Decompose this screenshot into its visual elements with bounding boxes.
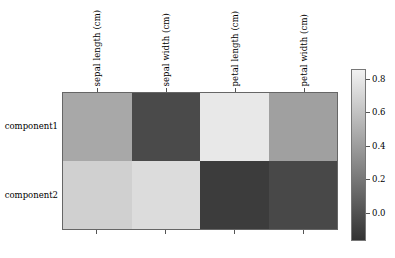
column-label-petal-width: petal width (cm): [299, 14, 308, 86]
colorbar: 0.8 0.6 0.4 0.2 0.0: [351, 69, 395, 241]
colorbar-tick-mark: [366, 179, 370, 180]
colorbar-label-0: 0.8: [372, 75, 386, 84]
colorbar-tick-mark: [366, 146, 370, 147]
row-label-component1: component1: [5, 122, 62, 131]
row-label-component2: component2: [5, 191, 62, 200]
column-axis: sepal length (cm) sepal width (cm) petal…: [62, 0, 338, 92]
colorbar-label-2: 0.4: [372, 142, 386, 151]
row-tick-1: component2: [0, 161, 62, 230]
heatmap-cell-r1-c0: [63, 161, 132, 229]
heatmap-cell-r0-c2: [200, 93, 269, 161]
column-tick-2: petal length (cm): [200, 0, 269, 92]
colorbar-tick-mark: [366, 213, 370, 214]
column-tick-0: sepal length (cm): [62, 0, 131, 92]
bottom-tick-mark: [303, 230, 304, 234]
heatmap-cell-r1-c1: [132, 161, 201, 229]
column-tick-1: sepal width (cm): [131, 0, 200, 92]
colorbar-tick-mark: [366, 79, 370, 80]
bottom-tick-mark: [234, 230, 235, 234]
column-label-sepal-length: sepal length (cm): [92, 9, 101, 86]
heatmap-cell-r1-c3: [269, 161, 338, 229]
heatmap-cell-r0-c1: [132, 93, 201, 161]
column-label-petal-length: petal length (cm): [230, 10, 239, 86]
heatmap-plot-area: [62, 92, 338, 230]
row-axis: component1 component2: [0, 92, 62, 230]
heatmap-cell-r1-c2: [200, 161, 269, 229]
column-label-sepal-width: sepal width (cm): [161, 13, 170, 86]
heatmap-cell-r0-c0: [63, 93, 132, 161]
colorbar-label-1: 0.6: [372, 108, 386, 117]
heatmap-cell-r0-c3: [269, 93, 338, 161]
colorbar-label-3: 0.2: [372, 175, 386, 184]
bottom-tick-mark: [165, 230, 166, 234]
colorbar-gradient: [351, 69, 366, 241]
bottom-axis-ticks: [62, 230, 338, 236]
colorbar-label-4: 0.0: [372, 208, 386, 217]
row-tick-0: component1: [0, 92, 62, 161]
colorbar-tick-mark: [366, 112, 370, 113]
column-tick-3: petal width (cm): [269, 0, 338, 92]
heatmap-figure: sepal length (cm) sepal width (cm) petal…: [0, 0, 395, 258]
bottom-tick-mark: [96, 230, 97, 234]
